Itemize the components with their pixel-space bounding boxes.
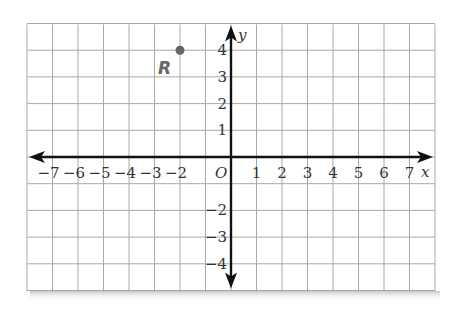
grid-shadow [30,291,440,301]
x-tick-label: 1 [252,164,262,182]
y-tick-label: 1 [217,121,227,139]
x-tick-label: 7 [405,164,415,182]
axes [29,26,433,289]
point-R [176,46,185,55]
x-tick-label: 3 [303,164,313,182]
y-tick-label: −3 [205,228,227,246]
y-tick-label: −4 [205,255,227,273]
coordinate-plane: −7−6−5−4−3−212345674321−2−3−4 x y O R [0,0,454,313]
x-tick-label: −3 [139,164,161,182]
x-tick-label: 6 [379,164,389,182]
y-tick-label: 4 [217,41,227,59]
y-tick-label: 3 [217,68,227,86]
x-tick-label: 4 [328,164,338,182]
point-label: R [158,58,171,78]
x-axis-label: x [421,163,430,181]
x-tick-label: −6 [63,164,85,182]
y-tick-label: 2 [217,95,227,113]
origin-label: O [215,164,227,182]
x-tick-label: 5 [354,164,364,182]
x-tick-label: −2 [165,164,187,182]
x-tick-label: 2 [277,164,287,182]
y-tick-label: −2 [205,201,227,219]
y-axis-label: y [237,26,247,44]
x-tick-label: −7 [37,164,59,182]
x-tick-label: −5 [88,164,110,182]
x-tick-label: −4 [114,164,136,182]
